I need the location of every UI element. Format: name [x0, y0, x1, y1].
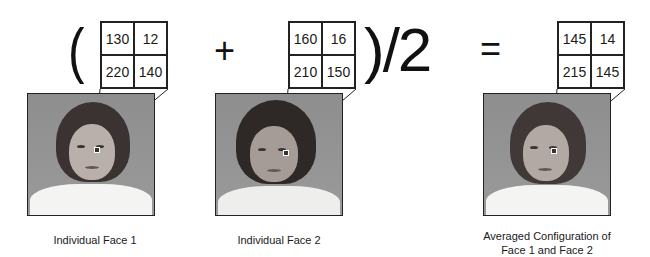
pixel-value: 215 [558, 55, 591, 88]
pixel-value: 160 [289, 22, 322, 55]
face-photo-1 [27, 93, 155, 216]
pixel-value: 14 [591, 22, 624, 55]
caption-face-2: Individual Face 2 [204, 233, 354, 247]
face-photo-2 [215, 93, 343, 216]
face-photo-averaged [483, 93, 611, 216]
pixel-grid-face-2: 160 16 210 150 [288, 21, 356, 89]
close-paren-divide-by-two: )/2 [364, 14, 430, 85]
equals-sign: = [480, 28, 501, 70]
pixel-value: 16 [322, 22, 355, 55]
pixel-value: 220 [101, 55, 134, 88]
pixel-value: 130 [101, 22, 134, 55]
pixel-grid-face-1: 130 12 220 140 [100, 21, 168, 89]
pixel-value: 12 [134, 22, 167, 55]
pixel-value: 140 [134, 55, 167, 88]
open-parenthesis: ( [68, 14, 85, 85]
caption-averaged-face: Averaged Configuration of Face 1 and Fac… [462, 229, 632, 257]
pixel-value: 145 [591, 55, 624, 88]
eye-pixel-marker [283, 150, 289, 156]
eye-pixel-marker [551, 148, 557, 154]
pixel-value: 150 [322, 55, 355, 88]
pixel-value: 210 [289, 55, 322, 88]
plus-sign: + [214, 30, 235, 72]
caption-face-1: Individual Face 1 [20, 233, 170, 247]
pixel-grid-averaged-face: 145 14 215 145 [557, 21, 625, 89]
eye-pixel-marker [94, 147, 100, 153]
pixel-value: 145 [558, 22, 591, 55]
